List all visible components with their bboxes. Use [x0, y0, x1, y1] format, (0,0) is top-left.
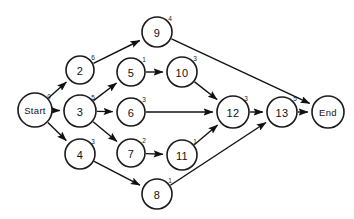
node-weight-label: 0 [47, 93, 51, 100]
graph-node-12[interactable]: 123 [217, 95, 249, 129]
graph-node-end[interactable]: End [312, 96, 344, 128]
node-weight-label: 5 [293, 95, 297, 102]
graph-edge [146, 154, 163, 155]
graph-node-8[interactable]: 81 [142, 177, 172, 210]
node-label: 5 [128, 67, 134, 79]
graph-edge [93, 122, 117, 142]
node-label: 10 [176, 67, 189, 79]
node-weight-label: 3 [142, 96, 146, 103]
graph-edge [194, 125, 217, 145]
node-label: 2 [77, 65, 83, 77]
node-label: 4 [77, 149, 83, 161]
node-label: 11 [176, 150, 188, 162]
graph-edge [48, 82, 66, 98]
node-label: 3 [77, 106, 83, 118]
node-weight-label: 5 [91, 94, 95, 101]
graph-diagram: Start02635435163728194103111123135End [0, 0, 354, 219]
node-weight-label: 1 [142, 56, 146, 63]
node-weight-label: 6 [91, 54, 95, 61]
graph-canvas: Start02635435163728194103111123135End [0, 0, 354, 219]
node-label: End [319, 107, 337, 118]
node-label: 12 [227, 107, 240, 119]
node-weight-label: 4 [168, 15, 172, 22]
graph-node-11[interactable]: 111 [167, 138, 197, 171]
graph-edge [195, 82, 218, 100]
node-weight-label: 1 [193, 138, 197, 145]
node-label: 7 [128, 148, 134, 160]
graph-node-3[interactable]: 35 [64, 94, 96, 128]
graph-node-9[interactable]: 94 [142, 15, 172, 48]
graph-edge [94, 83, 117, 101]
node-weight-label: 3 [193, 55, 197, 62]
node-weight-label: 3 [244, 95, 248, 102]
node-weight-label: 3 [91, 138, 95, 145]
node-label: 9 [154, 27, 160, 39]
graph-node-4[interactable]: 43 [65, 138, 95, 170]
graph-node-10[interactable]: 103 [167, 55, 197, 88]
graph-node-13[interactable]: 135 [267, 95, 297, 128]
node-label: Start [24, 105, 46, 116]
graph-node-5[interactable]: 51 [117, 56, 146, 87]
node-label: 13 [276, 107, 289, 119]
node-weight-label: 2 [142, 137, 146, 144]
graph-node-7[interactable]: 72 [117, 137, 146, 168]
node-label: 6 [128, 107, 134, 119]
graph-node-2[interactable]: 26 [66, 54, 95, 85]
graph-edge [48, 123, 66, 141]
node-weight-label: 1 [168, 177, 172, 184]
graph-node-start[interactable]: Start0 [18, 93, 52, 128]
graph-node-6[interactable]: 63 [117, 96, 146, 127]
node-label: 8 [154, 189, 160, 201]
